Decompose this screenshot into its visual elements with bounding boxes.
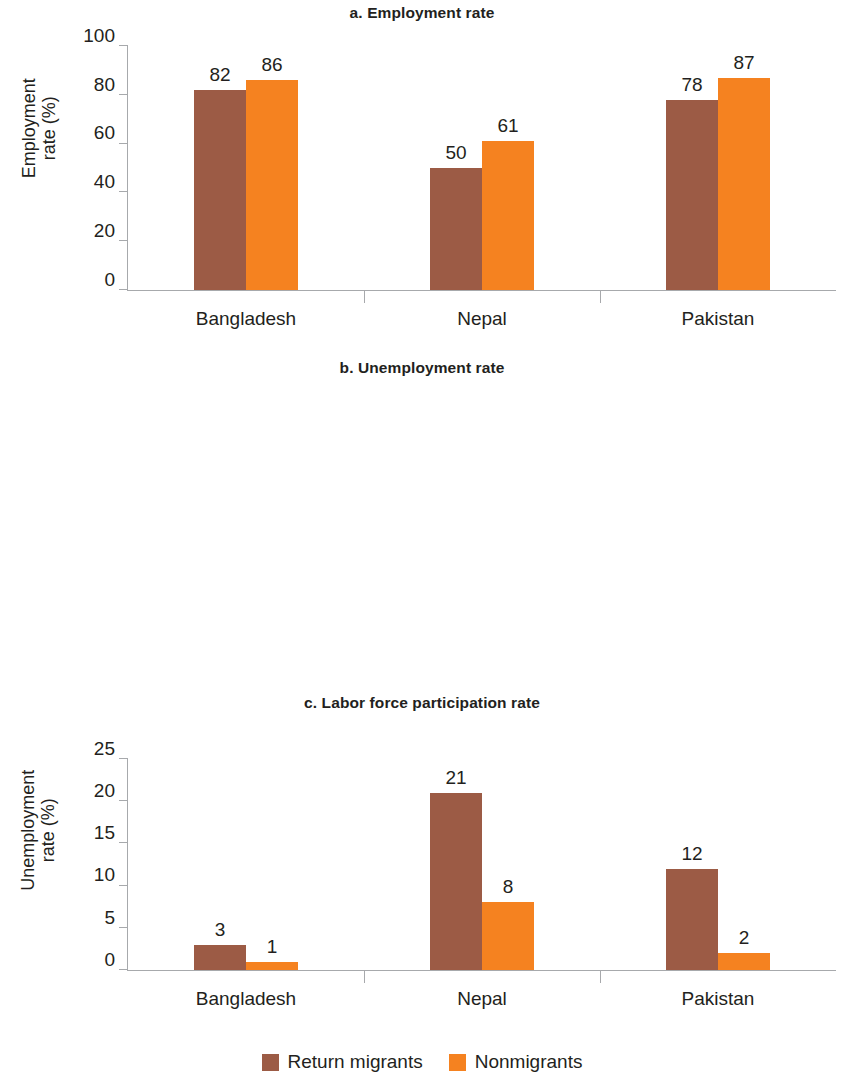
y-axis-tick bbox=[119, 240, 128, 241]
bar-value-label: 50 bbox=[445, 142, 466, 164]
x-axis-category-label: Bangladesh bbox=[128, 308, 364, 330]
bar-groups: 8286Bangladesh5061Nepal7887Pakistan bbox=[128, 46, 836, 290]
bar-fill bbox=[430, 168, 482, 290]
y-axis-label-a: Employment rate (%) bbox=[19, 13, 59, 243]
multi-panel-bar-chart-figure: a. Employment rate Employment rate (%) 0… bbox=[0, 0, 844, 1079]
panel-title-c: c. Labor force participation rate bbox=[0, 694, 844, 712]
bar-pair: 7887 bbox=[666, 46, 770, 290]
bar-return-migrants[interactable]: 50 bbox=[430, 46, 482, 290]
chart-panel-labor-force-participation-rate: c. Labor force participation rate Labor … bbox=[0, 690, 844, 1035]
bar-nonmigrants[interactable]: 61 bbox=[482, 46, 534, 290]
y-axis-tick-label: 40 bbox=[94, 171, 115, 193]
bar-value-label: 61 bbox=[497, 115, 518, 137]
legend-swatch-nonmigrants bbox=[449, 1054, 466, 1071]
bar-value-label: 78 bbox=[681, 74, 702, 96]
legend-label: Nonmigrants bbox=[475, 1051, 583, 1073]
bar-fill bbox=[482, 141, 534, 290]
bar-return-migrants[interactable]: 78 bbox=[666, 46, 718, 290]
legend-item[interactable]: Nonmigrants bbox=[449, 1051, 583, 1073]
bar-group-nepal: 5061Nepal bbox=[364, 46, 600, 290]
y-axis-tick bbox=[119, 94, 128, 95]
chart-panel-unemployment-rate: b. Unemployment rate Unemployment rate (… bbox=[0, 355, 844, 690]
y-axis-tick bbox=[119, 45, 128, 46]
y-axis-tick-label: 0 bbox=[104, 269, 115, 291]
y-axis-tick bbox=[119, 289, 128, 290]
bar-value-label: 86 bbox=[261, 54, 282, 76]
bar-nonmigrants[interactable]: 86 bbox=[246, 46, 298, 290]
y-axis-tick-label: 100 bbox=[83, 25, 115, 47]
x-axis-category-label: Pakistan bbox=[600, 308, 836, 330]
x-axis-category-label: Nepal bbox=[364, 308, 600, 330]
plot-area-a: 0204060801008286Bangladesh5061Nepal7887P… bbox=[127, 46, 836, 291]
bar-group-pakistan: 7887Pakistan bbox=[600, 46, 836, 290]
legend-swatch-return-migrants bbox=[262, 1054, 279, 1071]
bar-value-label: 87 bbox=[733, 52, 754, 74]
y-axis-tick-label: 60 bbox=[94, 122, 115, 144]
y-axis-tick-label: 80 bbox=[94, 74, 115, 96]
legend-label: Return migrants bbox=[288, 1051, 423, 1073]
panel-title-a: a. Employment rate bbox=[0, 4, 844, 22]
bar-pair: 5061 bbox=[430, 46, 534, 290]
y-axis-tick bbox=[119, 143, 128, 144]
bar-fill bbox=[666, 100, 718, 290]
bar-fill bbox=[718, 78, 770, 290]
bar-group-bangladesh: 8286Bangladesh bbox=[128, 46, 364, 290]
bar-value-label: 82 bbox=[209, 64, 230, 86]
bar-fill bbox=[246, 80, 298, 290]
y-axis-tick-label: 20 bbox=[94, 220, 115, 242]
x-axis-group-separator-tick bbox=[364, 290, 365, 303]
y-axis-tick bbox=[119, 191, 128, 192]
chart-legend: Return migrantsNonmigrants bbox=[0, 1051, 844, 1073]
legend-item[interactable]: Return migrants bbox=[262, 1051, 423, 1073]
x-axis-group-separator-tick bbox=[600, 290, 601, 303]
panel-title-b: b. Unemployment rate bbox=[0, 359, 844, 377]
bar-nonmigrants[interactable]: 87 bbox=[718, 46, 770, 290]
bar-return-migrants[interactable]: 82 bbox=[194, 46, 246, 290]
chart-panel-employment-rate: a. Employment rate Employment rate (%) 0… bbox=[0, 0, 844, 355]
bar-fill bbox=[194, 90, 246, 290]
bar-pair: 8286 bbox=[194, 46, 298, 290]
